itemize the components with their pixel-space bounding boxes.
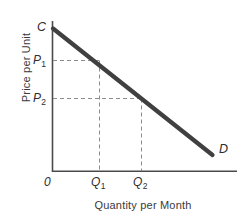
demand-curve-figure: Price per Unit Quantity per Month 0 C D … bbox=[0, 0, 250, 220]
quantity-2-subscript: 2 bbox=[143, 181, 148, 191]
price-1-label: P1 bbox=[33, 54, 46, 66]
price-2-subscript: 2 bbox=[41, 97, 46, 107]
quantity-2-letter: Q bbox=[133, 175, 142, 189]
curve-top-label: C bbox=[37, 21, 46, 34]
x-axis-title: Quantity per Month bbox=[73, 200, 213, 211]
price-1-letter: P bbox=[33, 53, 41, 67]
quantity-1-subscript: 1 bbox=[101, 181, 106, 191]
curve-bottom-label: D bbox=[219, 143, 228, 156]
price-1-subscript: 1 bbox=[41, 59, 46, 69]
demand-curve bbox=[53, 29, 213, 156]
quantity-1-letter: Q bbox=[91, 175, 100, 189]
quantity-1-label: Q1 bbox=[91, 176, 105, 188]
price-2-label: P2 bbox=[33, 92, 46, 104]
y-axis-title: Price per Unit bbox=[21, 16, 32, 120]
quantity-2-label: Q2 bbox=[133, 176, 147, 188]
price-2-letter: P bbox=[33, 91, 41, 105]
origin-label: 0 bbox=[44, 176, 51, 188]
